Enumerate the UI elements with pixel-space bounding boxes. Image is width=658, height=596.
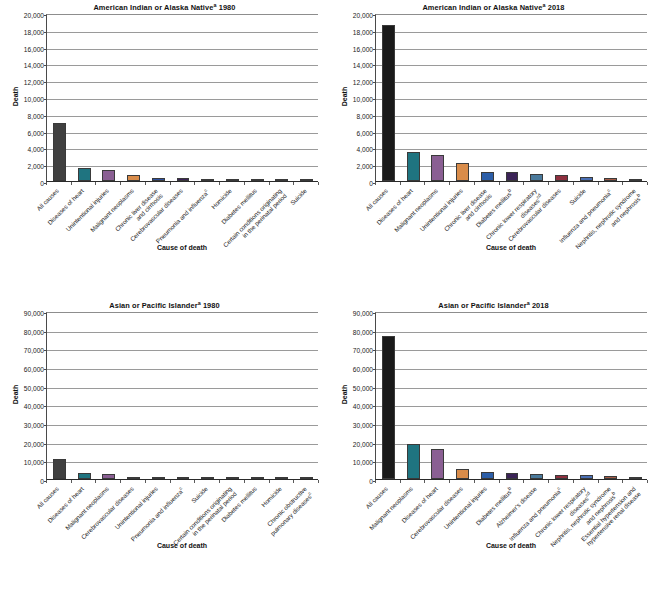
bar <box>127 175 140 181</box>
x-axis-category-label: Suicide <box>288 187 308 207</box>
y-axis-tick-mark <box>44 462 47 463</box>
y-axis-tick-mark <box>44 166 47 167</box>
y-axis-tick-label: 14,000 <box>24 62 44 69</box>
y-axis-tick-label: 18,000 <box>353 28 373 35</box>
y-axis-tick-label: 10,000 <box>24 459 44 466</box>
x-axis-tick-mark <box>424 480 425 483</box>
y-gridline <box>47 369 318 370</box>
bar <box>629 179 642 181</box>
bar <box>201 477 214 479</box>
x-axis-tick-mark <box>424 182 425 185</box>
y-axis-tick-label: 60,000 <box>353 366 373 373</box>
y-axis-tick-label: 20,000 <box>353 12 373 19</box>
x-axis-tick-mark <box>598 182 599 185</box>
y-axis-tick-label: 20,000 <box>353 440 373 447</box>
y-axis-tick-label: 80,000 <box>24 328 44 335</box>
bar <box>177 178 190 181</box>
bar <box>127 477 140 479</box>
chart-title: Asian or Pacific Islandera 1980 <box>0 300 329 310</box>
x-axis-label: Cause of death <box>46 542 318 549</box>
y-axis-tick-mark <box>373 133 376 134</box>
y-axis-tick-label: 40,000 <box>24 403 44 410</box>
x-axis-tick-mark <box>622 182 623 185</box>
bar <box>102 474 115 479</box>
y-gridline <box>47 350 318 351</box>
y-axis-tick-mark <box>373 425 376 426</box>
plot-area: 02,0004,0006,0008,00010,00012,00014,0001… <box>46 14 318 182</box>
y-axis-tick-mark <box>373 332 376 333</box>
x-axis-tick-mark <box>523 182 524 185</box>
bar <box>456 163 469 181</box>
x-axis-category-label: Malignant neoplasms <box>63 485 110 532</box>
chart-title-year: 2018 <box>530 301 549 310</box>
y-gridline <box>47 133 318 134</box>
y-axis-tick-mark <box>44 49 47 50</box>
y-gridline <box>47 116 318 117</box>
x-axis-tick-mark <box>95 182 96 185</box>
chart-title-year: 1980 <box>201 301 220 310</box>
bar <box>300 477 313 479</box>
y-axis-tick-mark <box>44 82 47 83</box>
x-axis-category-label: Unintentional injuries <box>64 187 110 233</box>
x-axis-tick-mark <box>194 480 195 483</box>
y-axis-tick-mark <box>44 388 47 389</box>
chart-title-year: 2018 <box>546 3 565 12</box>
x-axis-tick-mark <box>474 182 475 185</box>
y-axis-tick-label: 16,000 <box>24 45 44 52</box>
y-gridline <box>376 99 647 100</box>
y-axis-tick-label: 8,000 <box>27 112 44 119</box>
y-axis-tick-label: 90,000 <box>24 310 44 317</box>
y-axis-tick-mark <box>373 149 376 150</box>
y-axis-tick-mark <box>44 32 47 33</box>
y-gridline <box>376 49 647 50</box>
y-gridline <box>47 332 318 333</box>
y-axis-tick-label: 4,000 <box>356 146 373 153</box>
x-axis-tick-mark <box>647 480 648 483</box>
y-gridline <box>376 350 647 351</box>
x-axis-category-label-line: All causes <box>364 187 389 212</box>
y-axis-tick-mark <box>44 350 47 351</box>
chart-title-text: American Indian or Alaska Native <box>93 3 213 12</box>
x-axis-tick-mark <box>219 480 220 483</box>
x-axis-tick-mark <box>523 480 524 483</box>
bar <box>456 469 469 479</box>
x-axis-tick-mark <box>598 480 599 483</box>
plot-area: 010,00020,00030,00040,00050,00060,00070,… <box>375 312 647 480</box>
y-gridline <box>376 388 647 389</box>
x-axis-category-label: Malignant neoplasms <box>368 485 415 532</box>
chart-title-text: Asian or Pacific Islander <box>438 301 526 310</box>
y-axis-tick-mark <box>373 32 376 33</box>
y-axis-tick-label: 20,000 <box>24 440 44 447</box>
bar <box>431 449 444 479</box>
y-axis-tick-mark <box>44 369 47 370</box>
y-gridline <box>376 149 647 150</box>
y-gridline <box>47 49 318 50</box>
y-gridline <box>47 425 318 426</box>
bar <box>177 477 190 479</box>
x-axis-tick-mark <box>120 182 121 185</box>
x-axis-category-label-line: Suicide <box>568 187 587 206</box>
x-axis-category-label-line: Suicide <box>189 485 208 504</box>
x-axis-tick-mark <box>244 480 245 483</box>
chart-panel-1: American Indian or Alaska Nativea 2018De… <box>329 0 658 298</box>
y-axis-tick-mark <box>373 65 376 66</box>
y-axis-tick-label: 2,000 <box>27 163 44 170</box>
bar <box>53 123 66 181</box>
x-axis-tick-mark <box>293 182 294 185</box>
bar <box>604 178 617 181</box>
x-axis-tick-mark <box>120 480 121 483</box>
x-axis-category-label-line: All causes <box>35 485 60 510</box>
y-axis-tick-label: 50,000 <box>353 384 373 391</box>
x-axis-tick-mark <box>269 480 270 483</box>
x-axis-category-label-line: All causes <box>35 187 60 212</box>
y-axis-tick-label: 12,000 <box>353 79 373 86</box>
chart-panel-3: Asian or Pacific Islandera 2018Death010,… <box>329 298 658 596</box>
y-gridline <box>376 133 647 134</box>
bar <box>300 179 313 181</box>
x-axis-tick-mark <box>145 480 146 483</box>
y-axis-tick-mark <box>373 462 376 463</box>
x-axis-tick-mark <box>46 480 47 483</box>
y-axis-tick-label: 60,000 <box>24 366 44 373</box>
bar <box>629 477 642 479</box>
y-axis-tick-mark <box>44 425 47 426</box>
